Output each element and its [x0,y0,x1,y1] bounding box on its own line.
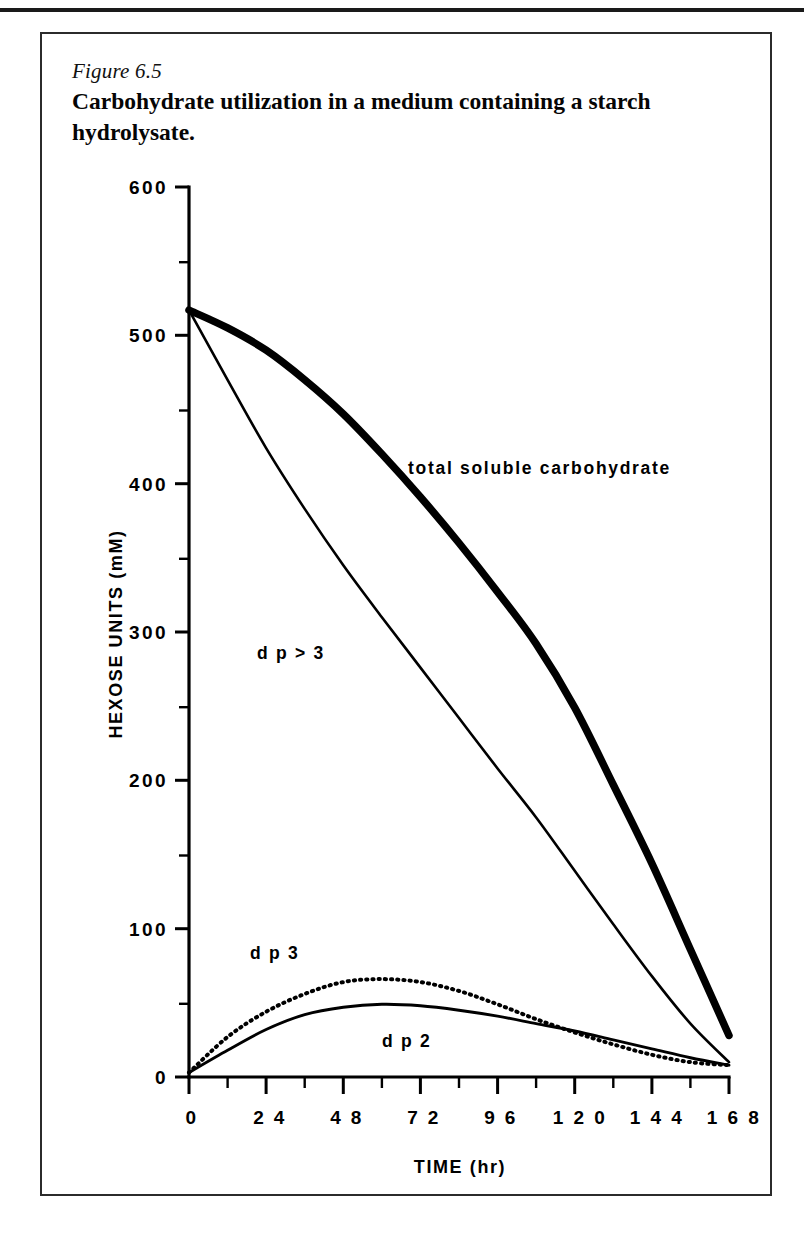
x-tick-label-48: 4 8 [330,1107,364,1128]
x-tick-label-168: 1 6 8 [707,1107,761,1128]
y-tick-label-500: 500 [129,325,168,346]
y-tick-label-400: 400 [129,474,168,495]
annotation-dp3: d p 3 [250,943,299,963]
x-tick-label-24: 2 4 [253,1107,287,1128]
x-axis-title: TIME (hr) [414,1157,506,1177]
chart-plot-area: 0 100 200 300 400 500 600 [42,34,774,1198]
page-top-rule [0,8,804,12]
x-tick-label-120: 1 2 0 [553,1107,607,1128]
y-tick-label-200: 200 [129,770,168,791]
y-axis-title: HEXOSE UNITS (mM) [106,529,126,738]
y-tick-label-100: 100 [129,919,168,940]
y-tick-label-300: 300 [129,622,168,643]
carbohydrate-utilization-chart: 0 100 200 300 400 500 600 [42,34,774,1198]
annotation-total-soluble-carbohydrate: total soluble carbohydrate [408,458,671,478]
x-tick-label-144: 1 4 4 [630,1107,684,1128]
x-tick-label-96: 9 6 [484,1107,518,1128]
y-tick-label-0: 0 [155,1067,168,1088]
x-tick-label-0: 0 [186,1107,199,1128]
curve-dp3 [189,979,729,1072]
y-axis-tick-labels: 0 100 200 300 400 500 600 [129,177,168,1088]
x-axis-ticks [189,1077,729,1094]
curve-total-soluble-carbohydrate [189,310,729,1035]
y-axis-ticks [175,187,189,1077]
curve-dp2 [189,1004,729,1072]
x-axis-tick-labels: 0 2 4 4 8 7 2 9 6 1 2 0 1 4 4 1 6 8 [186,1107,762,1128]
annotation-dp-greater-than-3: d p > 3 [257,643,325,663]
annotation-dp2: d p 2 [382,1031,431,1051]
y-tick-label-600: 600 [129,177,168,198]
x-tick-label-72: 7 2 [407,1107,441,1128]
figure-frame: Figure 6.5 Carbohydrate utilization in a… [40,32,772,1196]
